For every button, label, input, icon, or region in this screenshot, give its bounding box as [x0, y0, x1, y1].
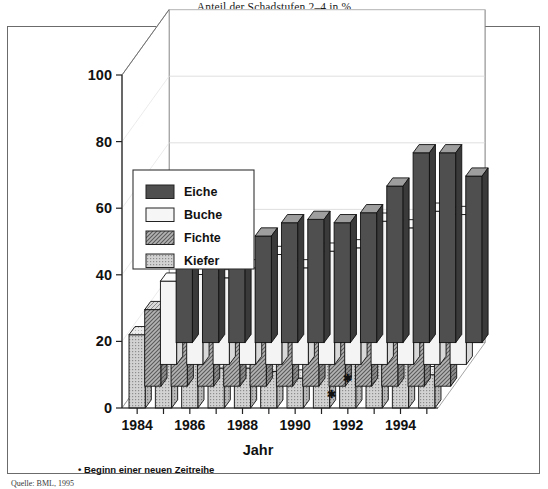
y-tick-0: 0: [104, 400, 112, 416]
x-tick-1988: 1988: [227, 417, 258, 433]
bar-eiche-1991: [360, 205, 382, 343]
x-axis-title: Jahr: [243, 442, 274, 458]
footnote: • Beginn einer neuen Zeitreihe: [78, 459, 214, 477]
y-tick-100: 100: [88, 67, 112, 83]
legend-label-kiefer: Kiefer: [184, 254, 220, 268]
x-tick-1986: 1986: [174, 417, 205, 433]
legend-label-eiche: Eiche: [184, 185, 217, 199]
legend-swatch-buche: [146, 208, 174, 222]
legend-swatch-kiefer: [146, 254, 174, 268]
x-tick-1994: 1994: [385, 417, 416, 433]
y-tick-40: 40: [96, 267, 112, 283]
bar-eiche-1988: [281, 215, 303, 343]
legend-label-fichte: Fichte: [184, 231, 221, 245]
x-tick-1990: 1990: [280, 417, 311, 433]
y-tick-20: 20: [96, 333, 112, 349]
bar-chart-3d: 020406080100198419861988199019921994Jahr…: [0, 0, 548, 489]
chart-legend: EicheBucheFichteKiefer: [133, 170, 254, 269]
new-series-marker: ✱: [343, 372, 352, 384]
legend-label-buche: Buche: [184, 208, 222, 222]
x-tick-1992: 1992: [332, 417, 363, 433]
bar-eiche-1994: [439, 145, 461, 343]
footnote-text: • Beginn einer neuen Zeitreihe: [78, 464, 214, 475]
source-line: Quelle: BML, 1995: [11, 479, 74, 488]
new-series-marker: ✱: [327, 388, 336, 400]
bar-eiche-1990: [334, 215, 356, 343]
legend-swatch-eiche: [146, 185, 174, 199]
y-tick-60: 60: [96, 200, 112, 216]
bar-eiche-1992: [387, 178, 409, 343]
bar-eiche-1993: [413, 145, 435, 343]
bar-eiche-1989: [308, 211, 330, 342]
figure-root: Anteil der Schadstufen 2–4 in %: [0, 0, 548, 489]
x-tick-1984: 1984: [122, 417, 153, 433]
y-tick-80: 80: [96, 134, 112, 150]
legend-swatch-fichte: [146, 231, 174, 245]
bar-eiche-1987: [255, 228, 277, 343]
bar-eiche-1995: [466, 168, 488, 343]
